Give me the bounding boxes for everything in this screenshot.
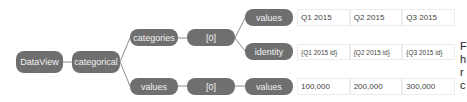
table-cell: Q2 2015: [350, 9, 403, 26]
category-identity-row: {Q1 2015 id} {Q2 2015 id} {Q3 2015 id}: [297, 44, 455, 60]
cutoff-paragraph-text: F h r c: [460, 40, 467, 92]
table-cell: {Q3 2015 id}: [402, 44, 455, 60]
node-values: values: [130, 78, 178, 95]
node-dataview: DataView: [16, 51, 63, 73]
cutoff-line: r: [460, 66, 467, 79]
table-cell: Q1 2015: [297, 9, 350, 26]
value-values-row: 100,000 200,000 300,000: [297, 78, 455, 95]
node-categorical: categorical: [72, 51, 120, 73]
table-cell: {Q2 2015 id}: [350, 44, 403, 60]
category-values-row: Q1 2015 Q2 2015 Q3 2015: [297, 9, 455, 26]
table-cell: 300,000: [402, 78, 455, 95]
node-categories-identity: identity: [245, 43, 293, 60]
cutoff-line: F: [460, 40, 467, 53]
node-categories-values: values: [245, 9, 293, 26]
node-categories-index: [0]: [187, 29, 235, 46]
cutoff-line: h: [460, 53, 467, 66]
table-cell: 100,000: [297, 78, 350, 95]
node-values-index: [0]: [187, 78, 235, 95]
node-categories: categories: [130, 29, 178, 46]
node-values-values: values: [245, 78, 293, 95]
table-cell: Q3 2015: [402, 9, 455, 26]
cutoff-line: c: [460, 79, 467, 92]
table-cell: 200,000: [350, 78, 403, 95]
table-cell: {Q1 2015 id}: [297, 44, 350, 60]
